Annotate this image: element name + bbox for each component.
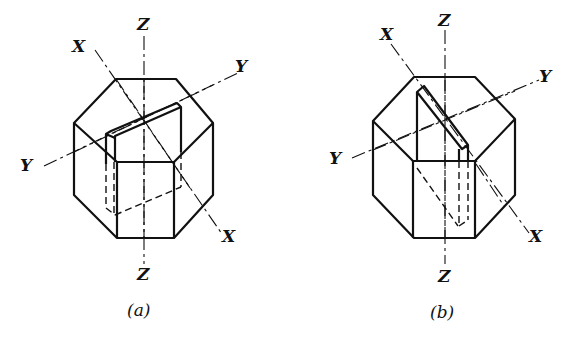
prism-diagram-a	[0, 0, 284, 342]
plate-hidden-diagonal	[417, 168, 458, 226]
x-axis-label-top: X	[380, 26, 393, 43]
figure-caption-b: (b)	[430, 304, 454, 321]
y-axis-label-right: Y	[539, 68, 551, 85]
x-axis	[391, 44, 529, 233]
x-axis-label-top: X	[72, 38, 85, 55]
z-axis-label-top: Z	[438, 12, 450, 29]
z-axis-label-bottom: Z	[137, 266, 149, 283]
x-axis-inner	[476, 164, 504, 206]
figure-caption-a: (a)	[127, 302, 150, 319]
y-axis-label-right: Y	[235, 58, 247, 75]
y-axis-label-left: Y	[20, 157, 32, 174]
plate-hidden-bottom	[115, 187, 181, 215]
figure-b: Z Z X X Y Y (b)	[284, 0, 568, 342]
plate-hidden-bottom	[459, 220, 468, 226]
y-axis-label-left: Y	[329, 150, 341, 167]
z-axis-label-bottom: Z	[438, 268, 450, 285]
prism-diagram-b	[284, 0, 568, 342]
x-axis-label-bottom: X	[529, 228, 542, 245]
figure-a: Z Z X X Y Y (a)	[0, 0, 284, 342]
z-axis-label-top: Z	[137, 16, 149, 33]
prism-outline	[373, 77, 515, 238]
x-axis-label-bottom: X	[222, 228, 235, 245]
